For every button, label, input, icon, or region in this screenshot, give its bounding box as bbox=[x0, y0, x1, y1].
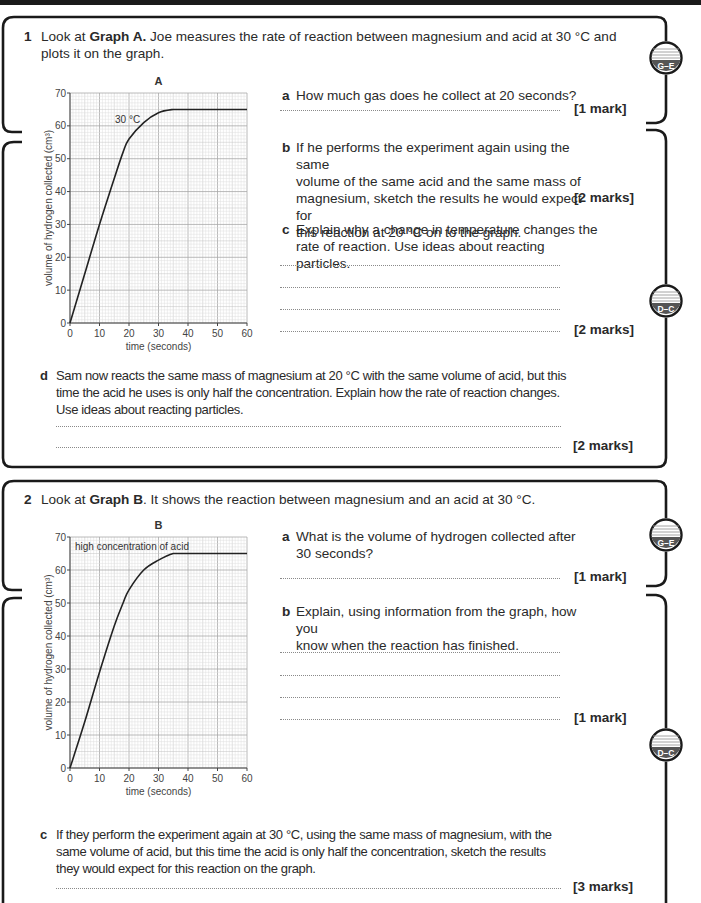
y-tick-label: 20 bbox=[55, 252, 67, 263]
x-tick-label: 40 bbox=[182, 328, 194, 339]
svg-text:G–E: G–E bbox=[657, 538, 674, 548]
x-tick-label: 50 bbox=[212, 773, 224, 784]
question-text-line: What is the volume of hydrogen collected… bbox=[296, 528, 576, 545]
x-tick-label: 50 bbox=[212, 328, 224, 339]
answer-line[interactable] bbox=[280, 309, 560, 310]
svg-text:G–E: G–E bbox=[657, 61, 674, 71]
y-tick-label: 40 bbox=[55, 631, 67, 642]
question-text-line: Use ideas about reacting particles. bbox=[56, 401, 566, 418]
y-axis-label: volume of hydrogen collected (cm³) bbox=[43, 130, 54, 286]
y-tick-label: 10 bbox=[55, 730, 67, 741]
curve-annotation: high concentration of acid bbox=[75, 541, 189, 552]
x-tick-label: 0 bbox=[67, 328, 73, 339]
question-number: 2 bbox=[24, 491, 32, 508]
y-axis-label: volume of hydrogen collected (cm³) bbox=[43, 574, 54, 730]
x-tick-label: 20 bbox=[123, 328, 135, 339]
y-tick-label: 30 bbox=[55, 664, 67, 675]
question-text-line: If they perform the experiment again at … bbox=[56, 826, 552, 843]
y-tick-label: 0 bbox=[60, 318, 66, 329]
question-text-line: 30 seconds? bbox=[296, 545, 576, 562]
graph-a: 0102030405060700102030405060Atime (secon… bbox=[0, 70, 265, 370]
svg-text:D–C: D–C bbox=[657, 748, 674, 758]
x-tick-label: 60 bbox=[241, 773, 253, 784]
part-letter: d bbox=[40, 367, 48, 384]
y-tick-label: 0 bbox=[60, 763, 66, 774]
graph-reference: Graph A. bbox=[89, 29, 146, 44]
marks-label: [1 mark] bbox=[574, 101, 627, 116]
header-bar bbox=[0, 0, 701, 5]
x-tick-label: 20 bbox=[123, 773, 135, 784]
curve-annotation: 30 °C bbox=[115, 114, 140, 125]
x-tick-label: 10 bbox=[94, 773, 106, 784]
answer-line[interactable] bbox=[280, 578, 560, 579]
question-text-line: they would expect for this reaction on t… bbox=[56, 860, 552, 877]
question-number: 1 bbox=[24, 28, 32, 45]
x-axis-label: time (seconds) bbox=[126, 786, 192, 797]
x-tick-label: 10 bbox=[94, 328, 106, 339]
grade-badge-ge-q2: G–E bbox=[649, 518, 683, 552]
y-tick-label: 40 bbox=[55, 186, 67, 197]
question-text: How much gas does he collect at 20 secon… bbox=[296, 87, 576, 104]
y-tick-label: 20 bbox=[55, 697, 67, 708]
question-text-line: rate of reaction. Use ideas about reacti… bbox=[296, 238, 602, 272]
y-tick-label: 60 bbox=[55, 120, 67, 131]
question-text-line: time the acid he uses is only half the c… bbox=[56, 384, 566, 401]
x-tick-label: 40 bbox=[182, 773, 194, 784]
answer-line[interactable] bbox=[280, 331, 560, 332]
graph-title: A bbox=[155, 75, 163, 87]
answer-line[interactable] bbox=[280, 675, 560, 676]
grid bbox=[70, 93, 247, 323]
marks-label: [2 marks] bbox=[574, 322, 634, 337]
grid bbox=[70, 537, 247, 768]
answer-line[interactable] bbox=[56, 888, 561, 889]
question-text-line: volume of the same acid and the same mas… bbox=[296, 173, 582, 190]
marks-label: [1 mark] bbox=[574, 569, 627, 584]
answer-line[interactable] bbox=[280, 287, 560, 288]
part-letter: c bbox=[282, 221, 290, 238]
svg-text:D–C: D–C bbox=[657, 304, 674, 314]
part-letter: b bbox=[282, 603, 290, 620]
question-text-line: Sam now reacts the same mass of magnesiu… bbox=[56, 367, 566, 384]
x-tick-label: 60 bbox=[241, 328, 253, 339]
graph-reference: Graph B bbox=[89, 492, 143, 507]
intro-text: plots it on the graph. bbox=[41, 46, 164, 61]
question-text-line: Explain, using information from the grap… bbox=[296, 603, 602, 637]
answer-line[interactable] bbox=[280, 697, 560, 698]
y-tick-label: 10 bbox=[55, 285, 67, 296]
grade-badge-dc-q1: D–C bbox=[649, 284, 683, 318]
intro-text: Look at bbox=[41, 492, 89, 507]
intro-text: Look at bbox=[41, 29, 89, 44]
marks-label: [1 mark] bbox=[574, 710, 627, 725]
y-tick-label: 50 bbox=[55, 598, 67, 609]
answer-line[interactable] bbox=[280, 265, 560, 266]
x-tick-label: 30 bbox=[153, 773, 165, 784]
y-tick-label: 60 bbox=[55, 565, 67, 576]
answer-line[interactable] bbox=[56, 426, 561, 427]
grade-badge-ge-q1: G–E bbox=[649, 41, 683, 75]
question-text-line: magnesium, sketch the results he would e… bbox=[296, 190, 582, 224]
marks-label: [2 marks] bbox=[574, 190, 634, 205]
question-2-intro: 2 Look at Graph B. It shows the reaction… bbox=[24, 491, 644, 509]
question-text-line: Explain why a change in temperature chan… bbox=[296, 221, 602, 238]
grade-badge-dc-q2: D–C bbox=[649, 728, 683, 762]
x-axis-label: time (seconds) bbox=[126, 341, 192, 352]
answer-line[interactable] bbox=[280, 719, 560, 720]
question-1-intro: 1 Look at Graph A. Joe measures the rate… bbox=[24, 28, 624, 64]
answer-line[interactable] bbox=[280, 110, 560, 111]
part-letter: a bbox=[282, 87, 290, 104]
part-letter: b bbox=[282, 139, 290, 156]
graph-b: 0102030405060700102030405060Btime (secon… bbox=[0, 515, 265, 815]
part-letter: a bbox=[282, 528, 290, 545]
x-tick-label: 30 bbox=[153, 328, 165, 339]
y-tick-label: 70 bbox=[55, 532, 67, 543]
part-letter: c bbox=[40, 826, 47, 843]
x-tick-label: 0 bbox=[67, 773, 73, 784]
y-tick-label: 70 bbox=[55, 88, 67, 99]
question-text-line: If he performs the experiment again usin… bbox=[296, 139, 582, 173]
graph-title: B bbox=[155, 519, 163, 531]
answer-line[interactable] bbox=[56, 447, 561, 448]
answer-line[interactable] bbox=[280, 652, 560, 653]
y-tick-label: 50 bbox=[55, 153, 67, 164]
intro-text: Joe measures the rate of reaction betwee… bbox=[146, 29, 616, 44]
intro-text: . It shows the reaction between magnesiu… bbox=[143, 492, 535, 507]
